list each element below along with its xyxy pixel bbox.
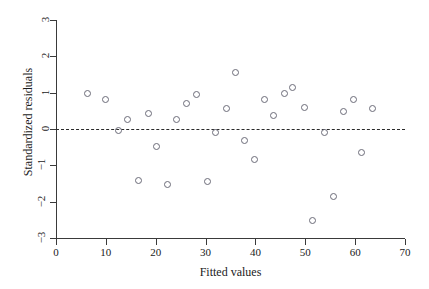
data-point bbox=[84, 90, 91, 97]
data-point bbox=[301, 104, 308, 111]
data-point bbox=[193, 91, 200, 98]
data-point bbox=[330, 193, 337, 200]
data-point bbox=[102, 96, 109, 103]
x-tick-label: 70 bbox=[390, 247, 420, 258]
data-point bbox=[358, 149, 365, 156]
data-point bbox=[261, 96, 268, 103]
residual-scatter-plot: 3210−1−2−3 010203040506070 Standardized … bbox=[0, 0, 429, 289]
data-point bbox=[223, 105, 230, 112]
x-tick bbox=[156, 239, 157, 245]
data-point bbox=[145, 110, 152, 117]
x-tick-label: 30 bbox=[191, 247, 221, 258]
data-point bbox=[183, 100, 190, 107]
data-point bbox=[369, 105, 376, 112]
x-tick bbox=[255, 239, 256, 245]
data-point bbox=[212, 129, 219, 136]
x-tick-label: 0 bbox=[41, 247, 71, 258]
y-tick bbox=[50, 165, 56, 166]
data-point bbox=[204, 178, 211, 185]
data-point bbox=[241, 137, 248, 144]
y-tick-label: 3 bbox=[22, 14, 48, 25]
data-point bbox=[173, 116, 180, 123]
data-point bbox=[350, 96, 357, 103]
x-tick-label: 60 bbox=[340, 247, 370, 258]
data-point bbox=[281, 90, 288, 97]
x-tick bbox=[56, 239, 57, 245]
data-point bbox=[251, 156, 258, 163]
x-axis-title: Fitted values bbox=[56, 266, 405, 278]
data-point bbox=[321, 129, 328, 136]
data-point bbox=[289, 84, 296, 91]
y-tick-label: −3 bbox=[22, 232, 48, 243]
data-point bbox=[153, 143, 160, 150]
data-point bbox=[309, 217, 316, 224]
data-point bbox=[124, 116, 131, 123]
data-point bbox=[135, 177, 142, 184]
x-tick bbox=[405, 239, 406, 245]
data-point bbox=[164, 181, 171, 188]
y-axis-title: Standardized residuals bbox=[22, 37, 34, 207]
x-tick bbox=[106, 239, 107, 245]
data-point bbox=[232, 69, 239, 76]
x-tick bbox=[206, 239, 207, 245]
x-tick-label: 50 bbox=[290, 247, 320, 258]
data-point bbox=[270, 112, 277, 119]
x-tick bbox=[305, 239, 306, 245]
x-tick-label: 20 bbox=[141, 247, 171, 258]
data-point bbox=[340, 108, 347, 115]
x-tick-label: 10 bbox=[91, 247, 121, 258]
data-point bbox=[115, 127, 122, 134]
x-tick bbox=[355, 239, 356, 245]
y-tick bbox=[50, 202, 56, 203]
x-axis-line bbox=[56, 238, 405, 239]
zero-reference-line bbox=[56, 129, 405, 130]
x-tick-label: 40 bbox=[240, 247, 270, 258]
